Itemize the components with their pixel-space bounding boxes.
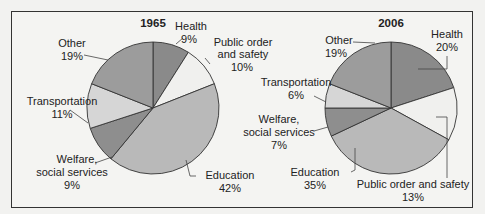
label-public-2: and safety [218,48,269,60]
label-other: Other [58,37,86,49]
label-welfare-2006: Welfare, [259,113,300,125]
chart-title-1965: 1965 [140,17,166,29]
value-other: 19% [61,50,83,62]
label-education-2006: Education [291,166,340,178]
value-health: 9% [181,33,197,45]
value-public-2006: 13% [402,191,424,203]
label-welfare-2006-2: social services [243,126,315,138]
value-public: 10% [231,61,253,73]
label-public-2006: Public order and safety [357,178,470,190]
value-welfare: 9% [64,179,80,191]
value-health-2006: 20% [436,41,458,53]
pie-1965 [87,42,219,174]
pie-charts: 1965 Health 9% Public order and safety 1… [0,0,485,214]
label-transportation: Transportation [27,95,98,107]
label-public: Public order [214,36,273,48]
label-education: Education [206,169,255,181]
value-education-2006: 35% [304,179,326,191]
label-transportation-2006: Transportation [261,76,332,88]
value-transportation: 11% [51,108,72,120]
label-welfare-2: social services [36,166,108,178]
value-education: 42% [219,182,241,194]
label-welfare: Welfare, [57,153,98,165]
value-welfare-2006: 7% [271,139,287,151]
chart-title-2006: 2006 [378,17,404,29]
label-health: Health [175,20,207,32]
pie-2006 [325,42,457,174]
value-transportation-2006: 6% [288,89,304,101]
label-health-2006: Health [431,28,463,40]
label-other-2006: Other [325,34,353,46]
value-other-2006: 19% [325,47,347,59]
